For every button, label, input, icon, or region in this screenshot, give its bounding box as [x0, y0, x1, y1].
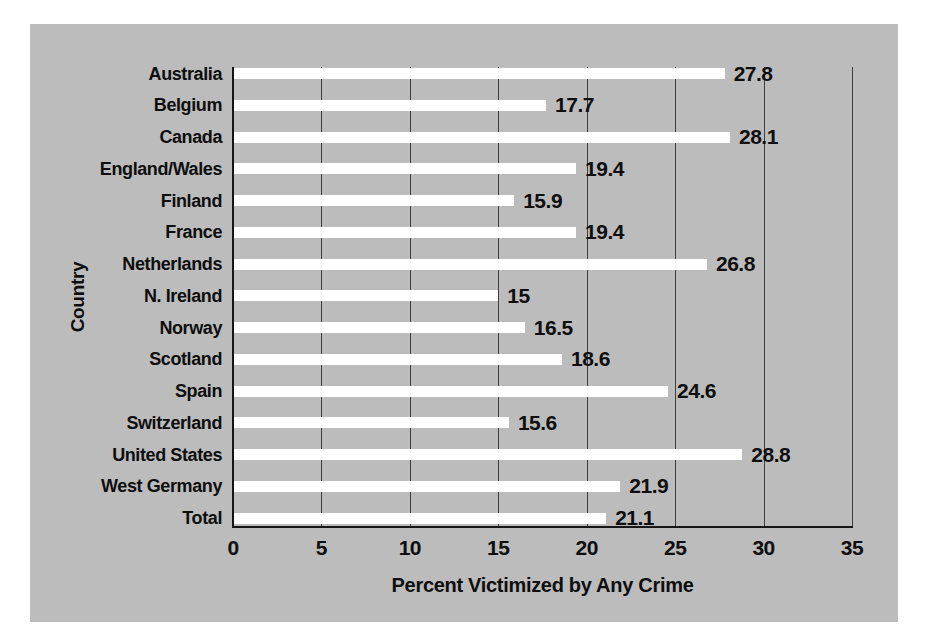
- category-label: Finland: [36, 189, 222, 213]
- category-label: England/Wales: [36, 157, 222, 181]
- y-axis-line: [232, 67, 234, 527]
- x-tick-label: 5: [316, 536, 327, 560]
- category-label: Belgium: [36, 93, 222, 117]
- value-label: 24.6: [677, 380, 716, 402]
- x-tick-label: 35: [841, 536, 863, 560]
- bar: [233, 227, 576, 238]
- x-tick-label: 15: [487, 536, 509, 560]
- value-label: 28.1: [739, 126, 778, 148]
- bar: [233, 100, 546, 111]
- category-label: United States: [36, 443, 222, 467]
- category-label: Norway: [36, 316, 222, 340]
- x-tick-label: 30: [752, 536, 774, 560]
- x-tick-label: 25: [664, 536, 686, 560]
- bar: [233, 132, 730, 143]
- bar: [233, 259, 707, 270]
- bar: [233, 195, 514, 206]
- bar: [233, 481, 620, 492]
- category-label: West Germany: [36, 474, 222, 498]
- category-label: France: [36, 220, 222, 244]
- category-label: N. Ireland: [36, 284, 222, 308]
- category-label: Canada: [36, 125, 222, 149]
- bar: [233, 386, 668, 397]
- value-label: 28.8: [751, 444, 790, 466]
- value-label: 27.8: [734, 63, 773, 85]
- x-tick-label: 20: [576, 536, 598, 560]
- value-label: 19.4: [585, 158, 624, 180]
- bar: [233, 290, 498, 301]
- x-tick-label: 10: [399, 536, 421, 560]
- x-axis-ticks: 05101520253035: [233, 536, 852, 562]
- bar: [233, 417, 509, 428]
- category-label: Spain: [36, 379, 222, 403]
- value-label: 15.6: [518, 412, 557, 434]
- value-label: 17.7: [555, 94, 594, 116]
- value-label: 26.8: [716, 253, 755, 275]
- figure: 27.817.728.119.415.919.426.81516.518.624…: [0, 0, 928, 644]
- category-label: Scotland: [36, 347, 222, 371]
- category-axis: AustraliaBelgiumCanadaEngland/WalesFinla…: [36, 67, 222, 527]
- bar: [233, 354, 562, 365]
- category-label: Switzerland: [36, 411, 222, 435]
- bar: [233, 68, 725, 79]
- x-tick-label: 0: [227, 536, 238, 560]
- value-label: 19.4: [585, 221, 624, 243]
- gridline-35: [852, 67, 853, 527]
- value-label: 15.9: [523, 190, 562, 212]
- value-label: 16.5: [534, 317, 573, 339]
- bar: [233, 513, 606, 524]
- value-label: 18.6: [571, 348, 610, 370]
- category-label: Total: [36, 506, 222, 530]
- value-label: 15: [507, 285, 529, 307]
- y-axis-title: Country: [67, 262, 89, 333]
- category-label: Australia: [36, 62, 222, 86]
- category-label: Netherlands: [36, 252, 222, 276]
- x-axis-title: Percent Victimized by Any Crime: [233, 574, 852, 597]
- bar: [233, 322, 525, 333]
- value-label: 21.9: [629, 475, 668, 497]
- x-axis-line: [232, 526, 853, 528]
- bar: [233, 163, 576, 174]
- plot-area: 27.817.728.119.415.919.426.81516.518.624…: [233, 67, 852, 527]
- bar: [233, 449, 742, 460]
